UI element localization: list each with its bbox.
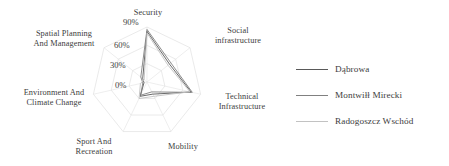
tick-label-30: 30%: [110, 61, 126, 71]
legend-swatch-montwill-mirecki: [296, 95, 328, 96]
tick-label-0: 0%: [115, 81, 126, 91]
axis-label-mobility: Mobility: [155, 142, 211, 152]
radar-plot-area: Security Social infrastructure Technical…: [0, 0, 300, 166]
chart-legend: Dąbrowa Montwiłł Mirecki Radogoszcz Wsch…: [296, 56, 449, 134]
axis-label-spatial-planning-and-management: Spatial Planning And Management: [16, 29, 112, 48]
tick-label-60: 60%: [114, 41, 130, 51]
axis-label-environment-and-climate-change: Environment And Climate Change: [8, 88, 100, 107]
legend-item-radogoszcz-wschod[interactable]: Radogoszcz Wschód: [296, 108, 449, 134]
axis-label-technical-infrastructure: Technical Infrastructure: [202, 92, 282, 111]
tick-label-90: 90%: [123, 18, 139, 28]
legend-label-montwill-mirecki: Montwiłł Mirecki: [335, 90, 402, 100]
legend-item-dabrowa[interactable]: Dąbrowa: [296, 56, 449, 82]
legend-swatch-dabrowa: [296, 69, 328, 70]
radar-chart-figure: Security Social infrastructure Technical…: [0, 0, 449, 166]
legend-item-montwill-mirecki[interactable]: Montwiłł Mirecki: [296, 82, 449, 108]
axis-label-sport-and-recreation: Sport And Recreation: [60, 137, 128, 156]
radar-plot-svg: [0, 0, 300, 166]
legend-swatch-radogoszcz-wschod: [296, 121, 328, 122]
legend-label-radogoszcz-wschod: Radogoszcz Wschód: [335, 116, 413, 126]
legend-label-dabrowa: Dąbrowa: [335, 64, 369, 74]
axis-label-social-infrastructure: Social infrastructure: [200, 26, 276, 45]
